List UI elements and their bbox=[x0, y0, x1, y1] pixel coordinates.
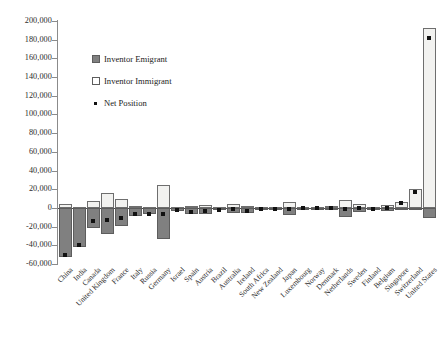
net-position-dot bbox=[315, 206, 319, 210]
y-axis-tick-label: 160,000 bbox=[2, 54, 52, 62]
net-position-dot bbox=[245, 209, 249, 213]
bar-inventor-emigrant bbox=[87, 208, 100, 229]
legend-item-inventor-immigrant: Inventor Immigrant bbox=[92, 70, 222, 92]
bar-inventor-immigrant bbox=[423, 28, 436, 208]
y-axis-tick bbox=[52, 171, 58, 172]
legend-swatch-outline-icon bbox=[92, 77, 100, 85]
y-axis-tick bbox=[52, 189, 58, 190]
net-position-dot bbox=[427, 36, 431, 40]
legend-label-inventor-emigrant: Inventor Emigrant bbox=[104, 55, 167, 64]
legend-swatch-filled-icon bbox=[92, 55, 100, 63]
net-position-dot bbox=[357, 206, 361, 210]
net-position-dot bbox=[175, 208, 179, 212]
y-axis-labels: 200,000180,000160,000140,000120,000100,0… bbox=[0, 0, 52, 348]
y-axis-tick bbox=[52, 152, 58, 153]
y-axis-tick bbox=[52, 114, 58, 115]
net-position-dot bbox=[413, 190, 417, 194]
net-position-dot bbox=[399, 201, 403, 205]
y-axis-tick-label: 0 bbox=[2, 204, 52, 212]
y-axis-tick-label: 120,000 bbox=[2, 92, 52, 100]
net-position-dot bbox=[217, 208, 221, 212]
y-axis-tick bbox=[52, 96, 58, 97]
legend-label-net-position: Net Position bbox=[104, 99, 147, 108]
net-position-dot bbox=[63, 253, 67, 257]
net-position-dot bbox=[329, 206, 333, 210]
bar-inventor-immigrant bbox=[87, 201, 100, 208]
bar-inventor-emigrant bbox=[409, 208, 422, 210]
bar-inventor-emigrant bbox=[73, 208, 86, 247]
y-axis-tick-label: 80,000 bbox=[2, 129, 52, 137]
net-position-dot bbox=[301, 206, 305, 210]
net-position-dot bbox=[91, 219, 95, 223]
bar-inventor-immigrant bbox=[101, 193, 114, 208]
net-position-dot bbox=[231, 207, 235, 211]
net-position-dot bbox=[385, 206, 389, 210]
y-axis-tick bbox=[52, 227, 58, 228]
y-axis-tick-label: 180,000 bbox=[2, 36, 52, 44]
net-position-dot bbox=[259, 207, 263, 211]
y-axis-tick bbox=[52, 264, 58, 265]
net-position-dot bbox=[133, 212, 137, 216]
y-axis-tick bbox=[52, 245, 58, 246]
net-position-dot bbox=[343, 207, 347, 211]
y-axis-tick-label: 100,000 bbox=[2, 110, 52, 118]
y-axis-tick bbox=[52, 133, 58, 134]
bar-inventor-emigrant bbox=[395, 208, 408, 210]
chart-legend: Inventor Emigrant Inventor Immigrant Net… bbox=[92, 48, 222, 114]
y-axis-tick-label: 140,000 bbox=[2, 73, 52, 81]
y-axis-tick bbox=[52, 208, 58, 209]
y-axis-tick bbox=[52, 40, 58, 41]
inventor-migration-chart: 200,000180,000160,000140,000120,000100,0… bbox=[0, 0, 443, 348]
y-axis-tick-label: -40,000 bbox=[2, 241, 52, 249]
y-axis-tick-label: 200,000 bbox=[2, 17, 52, 25]
net-position-dot bbox=[203, 209, 207, 213]
y-axis-tick-label: -60,000 bbox=[2, 260, 52, 268]
bar-inventor-emigrant bbox=[59, 208, 72, 258]
legend-item-inventor-emigrant: Inventor Emigrant bbox=[92, 48, 222, 70]
net-position-dot bbox=[161, 212, 165, 216]
y-axis-tick bbox=[52, 77, 58, 78]
y-axis-tick-label: 40,000 bbox=[2, 167, 52, 175]
bar-inventor-emigrant bbox=[423, 208, 436, 218]
net-position-dot bbox=[189, 210, 193, 214]
net-position-dot bbox=[119, 216, 123, 220]
y-axis-tick-label: 20,000 bbox=[2, 185, 52, 193]
net-position-dot bbox=[77, 243, 81, 247]
x-axis-labels: ChinaIndiaCanadaUnited KingdomFranceItal… bbox=[58, 266, 443, 348]
bar-inventor-immigrant bbox=[157, 185, 170, 208]
net-position-dot bbox=[287, 207, 291, 211]
net-position-dot bbox=[371, 207, 375, 211]
y-axis-tick bbox=[52, 21, 58, 22]
y-axis-tick bbox=[52, 58, 58, 59]
legend-dot-icon bbox=[92, 99, 100, 107]
y-axis-tick-label: 60,000 bbox=[2, 148, 52, 156]
legend-item-net-position: Net Position bbox=[92, 92, 222, 114]
net-position-dot bbox=[147, 212, 151, 216]
net-position-dot bbox=[273, 207, 277, 211]
bar-inventor-immigrant bbox=[115, 199, 128, 208]
legend-label-inventor-immigrant: Inventor Immigrant bbox=[104, 77, 172, 86]
y-axis-tick-label: -20,000 bbox=[2, 223, 52, 231]
net-position-dot bbox=[105, 218, 109, 222]
